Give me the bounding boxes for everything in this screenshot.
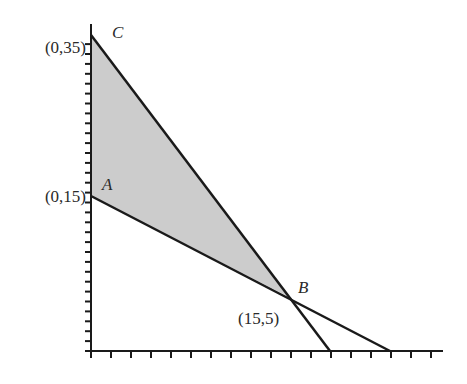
point-C-coord-label: (0,35) xyxy=(45,38,86,57)
point-C-label: C xyxy=(112,23,124,42)
feasible-region-diagram: (0,35) C (0,15) A B (15,5) xyxy=(0,0,467,384)
x-axis-ticks xyxy=(91,351,431,358)
point-A-coord-label: (0,15) xyxy=(45,187,86,206)
point-A-label: A xyxy=(101,175,113,194)
point-B-label: B xyxy=(298,278,309,297)
point-B-coord-label: (15,5) xyxy=(238,309,279,328)
